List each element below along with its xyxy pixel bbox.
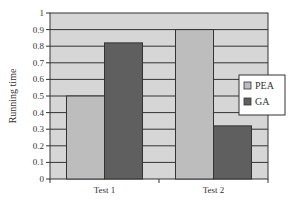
y-tick-label: 0.7 [33, 58, 45, 68]
bar-pea [176, 30, 214, 179]
y-tick-label: 0.3 [33, 124, 45, 134]
bar-pea [67, 96, 105, 179]
y-tick-label: 0.6 [33, 74, 45, 84]
y-tick-label: 1 [40, 8, 45, 18]
legend-swatch-pea [244, 82, 251, 89]
legend-label-pea: PEA [255, 80, 275, 91]
y-tick-label: 0.2 [33, 141, 44, 151]
legend-swatch-ga [244, 98, 251, 105]
y-axis-title: Running time [7, 68, 18, 123]
y-tick-label: 0.5 [33, 91, 45, 101]
y-tick-label: 0 [40, 174, 45, 184]
bar-ga [105, 43, 143, 179]
x-tick-label: Test 1 [94, 185, 116, 195]
legend: PEAGA [239, 75, 285, 115]
bar-chart: 00.10.20.30.40.50.60.70.80.91 Test 1Test… [0, 0, 300, 204]
y-tick-label: 0.8 [33, 41, 45, 51]
x-tick-label: Test 2 [203, 185, 225, 195]
y-tick-label: 0.9 [33, 25, 45, 35]
y-axis: 00.10.20.30.40.50.60.70.80.91 [33, 8, 50, 184]
y-tick-label: 0.4 [33, 108, 45, 118]
bar-ga [214, 126, 252, 179]
legend-label-ga: GA [255, 96, 270, 107]
x-axis: Test 1Test 2 [50, 179, 268, 195]
y-tick-label: 0.1 [33, 157, 44, 167]
